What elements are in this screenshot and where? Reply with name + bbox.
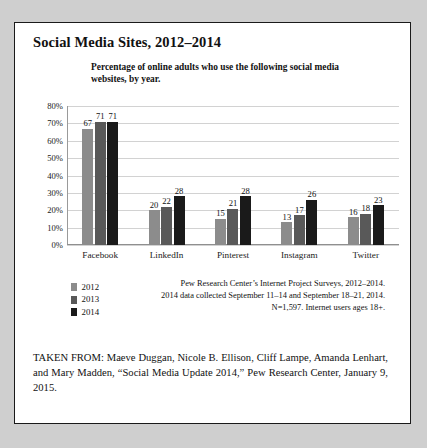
bar: 13 bbox=[281, 222, 292, 245]
legend-swatch bbox=[71, 296, 77, 304]
bar: 18 bbox=[360, 214, 371, 245]
bar-group: 131726Instagram bbox=[266, 106, 332, 245]
bar-value-label: 71 bbox=[108, 111, 117, 121]
bar: 20 bbox=[149, 210, 160, 245]
legend-label: 2014 bbox=[82, 308, 100, 317]
bar: 23 bbox=[373, 205, 384, 245]
y-axis-tick-label: 60% bbox=[47, 136, 63, 146]
bar-value-label: 23 bbox=[374, 195, 383, 205]
chart-source-note: Pew Research Center’s Internet Project S… bbox=[133, 278, 385, 315]
y-axis-tick-label: 30% bbox=[47, 188, 63, 198]
bar: 28 bbox=[240, 196, 251, 245]
bar-value-label: 21 bbox=[229, 198, 238, 208]
y-axis-tick-label: 50% bbox=[47, 153, 63, 163]
bar-value-label: 17 bbox=[295, 205, 304, 215]
legend-item: 2013 bbox=[71, 294, 141, 307]
bar: 15 bbox=[215, 219, 226, 245]
source-note-line-3: N=1,597. Internet users ages 18+. bbox=[133, 302, 385, 314]
bar: 71 bbox=[107, 122, 118, 245]
legend-swatch bbox=[71, 308, 77, 316]
attribution-text: TAKEN FROM: Maeve Duggan, Nicole B. Elli… bbox=[33, 350, 388, 395]
bar-group: 677171Facebook bbox=[67, 106, 133, 245]
bar-value-label: 67 bbox=[83, 118, 92, 128]
legend-label: 2012 bbox=[82, 283, 100, 292]
x-axis-tick-label: Facebook bbox=[82, 250, 118, 260]
chart-subtitle: Percentage of online adults who use the … bbox=[91, 61, 371, 86]
gridline bbox=[67, 245, 399, 246]
chart-bars: 677171Facebook202228LinkedIn152128Pinter… bbox=[67, 106, 399, 245]
y-axis-tick-label: 0% bbox=[52, 240, 63, 250]
legend-item: 2012 bbox=[71, 281, 141, 294]
bar: 71 bbox=[95, 122, 106, 245]
x-axis-tick-label: Twitter bbox=[353, 250, 379, 260]
bar: 26 bbox=[306, 200, 317, 245]
source-note-line-2: 2014 data collected September 11–14 and … bbox=[133, 290, 385, 302]
y-axis-tick-label: 40% bbox=[47, 171, 63, 181]
y-axis-tick-label: 80% bbox=[47, 101, 63, 111]
bar-value-label: 28 bbox=[241, 186, 250, 196]
y-axis-tick-label: 70% bbox=[47, 118, 63, 128]
bar: 28 bbox=[174, 196, 185, 245]
chart-legend: 201220132014 bbox=[71, 281, 141, 319]
bar-value-label: 20 bbox=[150, 200, 159, 210]
bar-value-label: 22 bbox=[162, 196, 171, 206]
legend-swatch bbox=[71, 283, 77, 291]
bar-value-label: 13 bbox=[283, 212, 292, 222]
bar: 16 bbox=[348, 217, 359, 245]
document-page: Social Media Sites, 2012–2014 Percentage… bbox=[14, 22, 411, 424]
bar-group: 152128Pinterest bbox=[200, 106, 266, 245]
bar-group: 161823Twitter bbox=[333, 106, 399, 245]
bar-value-label: 18 bbox=[361, 203, 370, 213]
legend-label: 2013 bbox=[82, 295, 100, 304]
bar: 22 bbox=[161, 207, 172, 245]
bar-value-label: 28 bbox=[175, 186, 184, 196]
y-axis-tick-label: 20% bbox=[47, 205, 63, 215]
bar: 17 bbox=[294, 215, 305, 245]
bar-value-label: 16 bbox=[349, 207, 358, 217]
source-note-line-1: Pew Research Center’s Internet Project S… bbox=[133, 278, 385, 290]
bar: 21 bbox=[227, 209, 238, 245]
chart-plot-area: 80%70%60%50%40%30%20%10%0% 677171Faceboo… bbox=[67, 106, 399, 245]
bar-group: 202228LinkedIn bbox=[133, 106, 199, 245]
x-axis-tick-label: Pinterest bbox=[217, 250, 249, 260]
y-axis-tick-label: 10% bbox=[47, 223, 63, 233]
bar-value-label: 26 bbox=[308, 189, 317, 199]
bar: 67 bbox=[82, 129, 93, 245]
bar-value-label: 71 bbox=[96, 111, 105, 121]
bar-value-label: 15 bbox=[216, 208, 225, 218]
legend-item: 2014 bbox=[71, 306, 141, 319]
x-axis-tick-label: Instagram bbox=[281, 250, 318, 260]
x-axis-tick-label: LinkedIn bbox=[150, 250, 184, 260]
